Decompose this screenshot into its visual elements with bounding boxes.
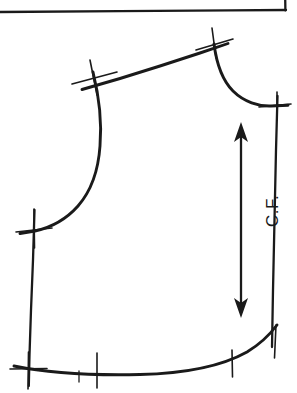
- pattern-sheet: C.F.: [0, 0, 297, 393]
- shoulder-seam-line: [82, 44, 228, 90]
- center-front-line: [272, 96, 278, 347]
- grainline-arrow: [234, 122, 248, 318]
- pattern-outline: [14, 44, 288, 387]
- armhole-curve: [20, 72, 101, 234]
- underarm-notch: [16, 209, 52, 248]
- pattern-drawing: [0, 0, 297, 393]
- notch-marks: [10, 28, 291, 389]
- page-border: [0, 0, 286, 12]
- shoulder-notch: [72, 60, 117, 95]
- hem-notch-2: [232, 350, 233, 377]
- top-rule-line: [0, 10, 286, 12]
- hem-curve: [14, 325, 277, 375]
